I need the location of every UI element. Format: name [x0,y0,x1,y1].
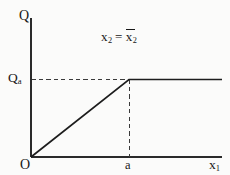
economics-production-function-figure: Q Qa O a x1 x2=x2 [0,0,230,175]
y-axis-label: Q [19,9,29,23]
constraint-annotation: x2=x2 [101,30,137,43]
y-axis-tick-label-qa: Qa [8,71,22,85]
annotation-right-base: x [126,29,133,44]
x1-base: x [209,157,216,172]
annotation-left-subscript: 2 [108,36,112,45]
qa-base: Q [8,70,18,85]
annotation-right-subscript: 2 [133,36,137,45]
annotation-equals-sign: = [112,29,126,44]
annotation-right-term-overbar: x2 [126,30,137,43]
qa-subscript: a [18,76,22,86]
origin-label: O [20,158,30,172]
x1-subscript: 1 [216,163,220,173]
x-axis-label: x1 [209,158,220,172]
annotation-left-term: x2 [101,29,112,44]
x-axis-tick-label-a: a [125,159,131,172]
production-function-curve [31,80,222,158]
annotation-left-base: x [101,29,108,44]
plot-canvas [0,0,230,175]
